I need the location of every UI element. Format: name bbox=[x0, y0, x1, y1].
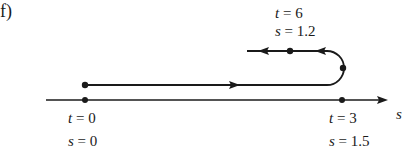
axis-dot-s0 bbox=[82, 97, 88, 103]
label-s1.2: s = 1.2 bbox=[275, 23, 316, 39]
label-s1.5: s = 1.5 bbox=[329, 133, 370, 149]
label-t6: t = 6 bbox=[275, 5, 303, 21]
path-end-dot bbox=[287, 48, 293, 54]
label-s0: s = 0 bbox=[68, 133, 97, 149]
label-t3: t = 3 bbox=[329, 110, 357, 126]
axis-label: s bbox=[396, 106, 402, 122]
forward-path bbox=[85, 51, 344, 85]
label-t0: t = 0 bbox=[68, 110, 96, 126]
path-start-dot bbox=[82, 82, 88, 88]
axis-dot-s1.5 bbox=[339, 97, 345, 103]
path-turn-dot bbox=[340, 65, 346, 71]
panel-label: f) bbox=[0, 3, 12, 19]
